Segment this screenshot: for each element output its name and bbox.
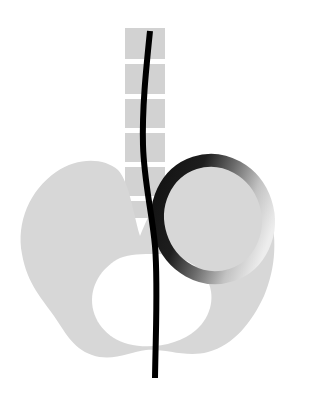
abstract-figure-svg — [0, 0, 310, 400]
illustration-canvas: Abstract black-and-gray vector illustrat… — [0, 0, 310, 400]
